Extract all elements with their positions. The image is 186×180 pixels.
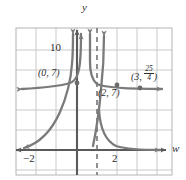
x-axis-label: w [172, 143, 179, 154]
y-tick-label-10: 10 [50, 42, 61, 53]
annotation-prefix: (3, [131, 71, 144, 82]
fraction-25-4: 254 [144, 65, 154, 82]
y-axis-label: y [82, 2, 87, 13]
annotation-point-2-7: (2, 7) [98, 88, 120, 98]
annotation-suffix: ) [154, 71, 157, 82]
annotation-point-3-25-4: (3, 254) [131, 65, 157, 82]
marker-point-0-7 [75, 81, 80, 86]
x-tick-label-neg2: −2 [23, 153, 35, 164]
x-tick-label-2: 2 [112, 153, 118, 164]
fraction-denominator: 4 [144, 74, 154, 82]
annotation-point-0-7: (0, 7) [38, 68, 60, 78]
marker-point-3-25-4 [138, 86, 143, 91]
graph-figure: y w 10 −2 2 (0, 7) (2, 7) (3, 254) [0, 0, 186, 180]
